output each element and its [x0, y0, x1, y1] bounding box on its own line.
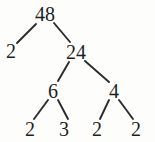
tree-edge [58, 100, 68, 119]
factor-tree-diagram: 48224642322 [0, 0, 155, 142]
tree-node-4-n4: 4 [109, 81, 119, 101]
tree-edge [119, 100, 133, 119]
tree-edge [54, 23, 70, 42]
tree-node-24-n24: 24 [66, 42, 86, 62]
tree-node-2-n2c: 2 [92, 119, 102, 139]
tree-edge [34, 100, 48, 119]
tree-node-2-n2b: 2 [25, 119, 35, 139]
tree-node-2-n2a: 2 [6, 41, 16, 61]
tree-node-2-n2d: 2 [131, 119, 141, 139]
tree-node-6-n6: 6 [48, 81, 58, 101]
tree-node-48-n48: 48 [35, 4, 55, 24]
tree-edge [100, 100, 109, 119]
tree-edge [58, 62, 69, 81]
tree-node-3-n3: 3 [59, 119, 69, 139]
tree-edge [17, 24, 36, 43]
edges-group [17, 23, 133, 119]
tree-edge [85, 61, 109, 82]
